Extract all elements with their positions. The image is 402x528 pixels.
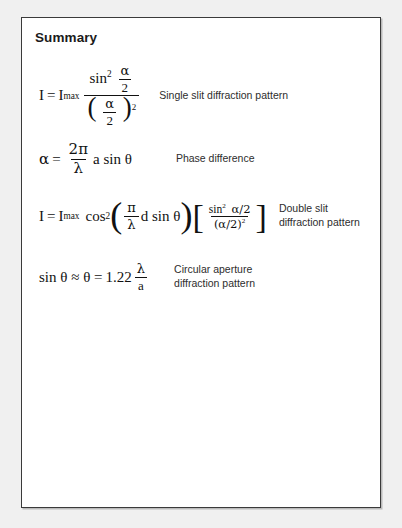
right-paren: ) (123, 98, 132, 117)
denominator-exponent: 2 (132, 102, 137, 112)
pi-over-lambda-fraction: π λ (124, 201, 139, 231)
equals-sign-phase: = (52, 151, 60, 168)
lambda-denominator: λ (71, 159, 87, 177)
two-value-den: 2 (103, 112, 116, 128)
left-paren: ( (87, 98, 96, 117)
left-bracket: [ (192, 204, 203, 229)
pi-numerator: π (124, 201, 139, 216)
equals-sign: = (47, 87, 55, 104)
bracket-numerator: sin2 α/2 (206, 203, 254, 216)
two-pi-over-lambda-fraction: 2π λ (66, 142, 91, 177)
a-sin-theta-term: a sin θ (93, 151, 132, 168)
description-single-slit: Single slit diffraction pattern (159, 89, 288, 103)
description-phase-difference: Phase difference (176, 152, 255, 166)
sin-theta-approx-term: sin θ ≈ θ = (39, 269, 103, 286)
formula-row-single-slit: I = Imax sin2 α 2 ( α 2 (39, 64, 288, 128)
alpha-over-two-denominator: α 2 (102, 97, 117, 127)
bracket-denominator-exponent: 2 (242, 217, 246, 225)
equation-single-slit: I = Imax sin2 α 2 ( α 2 (39, 64, 141, 128)
sin-exponent-bracket: 2 (222, 202, 226, 210)
equals-sign-double: = (47, 208, 55, 225)
lambda-over-a-fraction: λ a (134, 262, 148, 292)
formula-row-phase-difference: α = 2π λ a sin θ Phase difference (39, 142, 255, 177)
slide-page: Summary I = Imax sin2 α 2 ( (21, 17, 381, 508)
equation-circular-aperture: sin θ ≈ θ = 1.22 λ a (39, 262, 150, 292)
page-title: Summary (35, 30, 97, 45)
alpha-over-two-paren: (α/2) (214, 217, 242, 231)
a-denominator-circular: a (135, 277, 147, 293)
bracket-denominator: (α/2)2 (211, 216, 249, 230)
intensity-symbol-double: I (39, 208, 44, 225)
d-sin-theta-term: d sin θ (141, 208, 181, 225)
sin-function: sin (90, 70, 108, 86)
alpha-symbol-lhs: α (39, 150, 49, 168)
single-slit-denominator: ( α 2 )2 (84, 95, 139, 127)
intensity-symbol: I (39, 87, 44, 104)
single-slit-fraction: sin2 α 2 ( α 2 )2 (84, 64, 139, 128)
coefficient-value: 1.22 (106, 269, 132, 286)
left-paren-double: ( (110, 203, 122, 229)
lambda-denominator-double: λ (124, 216, 138, 232)
cos-function: cos (85, 208, 105, 225)
sin-function-bracket: sin (209, 203, 222, 215)
formula-row-double-slit: I = Imax cos2 ( π λ d sin θ ) [ sin2 α/2… (39, 201, 360, 231)
single-slit-numerator: sin2 α 2 (87, 64, 138, 95)
alpha-over-two-inline: α/2 (232, 202, 251, 216)
description-double-slit: Double slit diffraction pattern (279, 202, 360, 230)
equation-phase-difference: α = 2π λ a sin θ (39, 142, 132, 177)
formula-row-circular-aperture: sin θ ≈ θ = 1.22 λ a Circular aperture d… (39, 262, 255, 292)
right-bracket: ] (256, 204, 267, 229)
bracket-fraction: sin2 α/2 (α/2)2 (206, 203, 254, 230)
equation-double-slit: I = Imax cos2 ( π λ d sin θ ) [ sin2 α/2… (39, 201, 267, 231)
description-circular-aperture: Circular aperture diffraction pattern (174, 263, 255, 291)
sin-exponent: 2 (107, 69, 112, 79)
right-paren-double: ) (180, 203, 192, 229)
alpha-symbol-den: α (102, 97, 117, 112)
lambda-numerator-circular: λ (134, 262, 148, 277)
alpha-over-two-numerator: α 2 (117, 64, 132, 94)
two-pi-numerator: 2π (66, 142, 91, 159)
alpha-symbol: α (117, 64, 132, 79)
